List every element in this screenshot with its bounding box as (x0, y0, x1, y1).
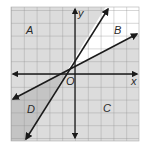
origin-label: O (66, 75, 75, 87)
coordinate-plane: A B C D y x O (0, 0, 144, 152)
region-a-label: A (25, 24, 33, 36)
region-d-label: D (27, 103, 35, 115)
region-b-label: B (114, 24, 121, 36)
region-c-label: C (103, 102, 111, 114)
x-axis-label: x (130, 75, 137, 87)
